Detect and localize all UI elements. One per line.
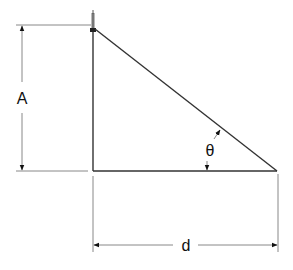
- angle-indicator: θ: [206, 130, 220, 170]
- distance-dimension: d: [94, 237, 277, 254]
- height-label: A: [17, 90, 28, 107]
- height-dimension: A: [17, 26, 28, 170]
- angle-label: θ: [206, 142, 215, 159]
- pole-top-icon: [90, 10, 96, 32]
- hypotenuse: [95, 29, 277, 171]
- angle-arrow-top: [214, 130, 220, 139]
- triangle-diagram: A d θ: [0, 0, 293, 270]
- distance-label: d: [182, 237, 191, 254]
